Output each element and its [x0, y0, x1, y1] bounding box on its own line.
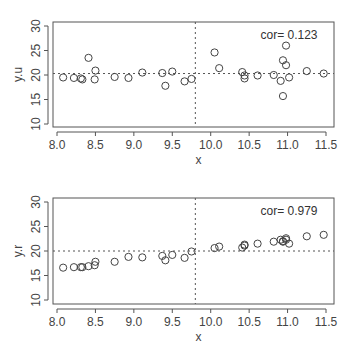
data-point	[85, 54, 92, 61]
data-point	[162, 82, 169, 89]
data-point	[270, 71, 277, 78]
data-point	[181, 254, 188, 261]
data-point	[139, 69, 146, 76]
x-tick-label: 8.5	[87, 138, 104, 152]
y-tick-label: 25	[29, 220, 43, 234]
x-tick-label: 8.0	[49, 138, 66, 152]
y-tick-label: 10	[29, 293, 43, 307]
data-point	[286, 74, 293, 81]
x-tick-label: 8.5	[87, 315, 104, 329]
x-tick-label: 9.0	[126, 138, 143, 152]
data-point	[70, 74, 77, 81]
x-tick-label: 10.5	[237, 138, 261, 152]
x-tick-label: 10.0	[199, 315, 223, 329]
y-tick-label: 15	[29, 269, 43, 283]
data-point	[125, 74, 132, 81]
data-point	[60, 264, 67, 271]
data-point	[169, 251, 176, 258]
y-tick-label: 20	[29, 244, 43, 258]
data-point	[303, 67, 310, 74]
y-tick-label: 15	[29, 93, 43, 107]
data-point	[125, 253, 132, 260]
y-axis-label: y.u	[11, 67, 25, 82]
data-point	[181, 78, 188, 85]
data-point	[279, 92, 286, 99]
x-axis-label: x	[196, 153, 202, 167]
y-tick-label: 10	[29, 117, 43, 131]
data-point	[320, 231, 327, 238]
data-point	[111, 258, 118, 265]
x-tick-label: 11.5	[315, 315, 338, 329]
data-point	[139, 254, 146, 261]
data-point	[188, 75, 195, 82]
y-tick-label: 25	[29, 44, 43, 58]
data-point	[216, 65, 223, 72]
data-point	[282, 42, 289, 49]
x-tick-label: 8.0	[49, 315, 66, 329]
data-point	[91, 76, 98, 83]
data-point	[303, 233, 310, 240]
scatter-plot-canvas: 8.08.59.09.510.010.511.011.5x1015202530y…	[0, 0, 355, 353]
correlation-annotation: cor= 0.979	[260, 204, 317, 218]
data-point	[169, 68, 176, 75]
data-point	[211, 49, 218, 56]
x-tick-label: 11.0	[276, 138, 299, 152]
scatter-panel-2: 8.08.59.09.510.010.511.011.5x1015202530y…	[11, 195, 338, 344]
correlation-annotation: cor= 0.123	[260, 28, 317, 42]
x-tick-label: 11.5	[315, 138, 338, 152]
data-point	[254, 240, 261, 247]
data-point	[277, 77, 284, 84]
x-tick-label: 10.5	[237, 315, 261, 329]
data-point	[60, 74, 67, 81]
data-point	[92, 67, 99, 74]
y-tick-label: 30	[29, 195, 43, 209]
data-point	[216, 243, 223, 250]
x-tick-label: 9.0	[126, 315, 143, 329]
x-tick-label: 9.5	[164, 138, 181, 152]
x-tick-label: 11.0	[276, 315, 299, 329]
x-tick-label: 9.5	[164, 315, 181, 329]
data-point	[270, 238, 277, 245]
data-point	[70, 264, 77, 271]
x-axis-label: x	[196, 330, 202, 344]
y-tick-label: 30	[29, 19, 43, 33]
y-tick-label: 20	[29, 68, 43, 82]
x-tick-label: 10.0	[199, 138, 223, 152]
data-point	[254, 72, 261, 79]
data-point	[111, 73, 118, 80]
scatter-panel-1: 8.08.59.09.510.010.511.011.5x1015202530y…	[11, 19, 338, 167]
y-axis-label: y.r	[11, 245, 25, 257]
